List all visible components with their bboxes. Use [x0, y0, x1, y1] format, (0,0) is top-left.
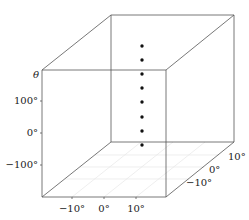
data-point: [140, 115, 143, 118]
z-tick-label: 100°: [14, 95, 38, 106]
data-point: [140, 44, 143, 47]
y-tick-label: −10°: [186, 177, 212, 188]
data-point: [140, 58, 143, 61]
data-point: [140, 129, 143, 132]
3d-scatter-plot: θ 100° 0° −100° −10° 0° 10° 10° 0° −10°: [0, 0, 249, 220]
data-point: [140, 72, 143, 75]
x-tick-label: −10°: [59, 203, 85, 214]
data-point: [140, 100, 143, 103]
x-tick-label: 10°: [127, 203, 145, 214]
data-point: [140, 143, 143, 146]
x-tick-label: 0°: [98, 203, 109, 214]
data-point: [140, 86, 143, 89]
y-tick-label: 10°: [228, 151, 246, 162]
z-tick-label: 0°: [27, 127, 38, 138]
z-tick-label: −100°: [6, 159, 38, 170]
data-points: [140, 44, 143, 146]
z-axis-label: θ: [33, 69, 39, 80]
y-tick-label: 0°: [209, 164, 220, 175]
floor-grid: [65, 142, 219, 197]
